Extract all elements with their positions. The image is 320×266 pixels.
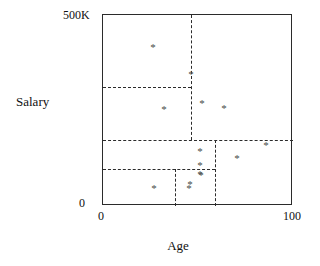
plot-inner: ************** <box>103 15 291 204</box>
data-point: * <box>186 183 192 194</box>
y-axis-title: Salary <box>16 94 49 110</box>
split-line-vertical <box>175 169 176 206</box>
x-axis-min-label: 0 <box>98 209 104 224</box>
y-axis-min-label: 0 <box>79 196 85 211</box>
data-point: * <box>151 183 157 194</box>
y-axis-max-label: 500K <box>63 8 90 23</box>
data-point: * <box>161 104 167 115</box>
data-point: * <box>263 140 269 151</box>
data-point: * <box>150 42 156 53</box>
x-axis-title: Age <box>167 238 189 254</box>
split-line-horizontal <box>103 87 191 88</box>
chart-screenshot: 500K 0 0 100 Salary Age ************** <box>0 0 320 266</box>
data-point: * <box>198 170 204 181</box>
data-point: * <box>221 103 227 114</box>
x-axis-max-label: 100 <box>283 209 301 224</box>
data-point: * <box>197 146 203 157</box>
split-line-vertical <box>215 140 216 206</box>
data-point: * <box>188 69 194 80</box>
data-point: * <box>199 98 205 109</box>
data-point: * <box>234 153 240 164</box>
plot-area: ************** <box>102 14 292 205</box>
